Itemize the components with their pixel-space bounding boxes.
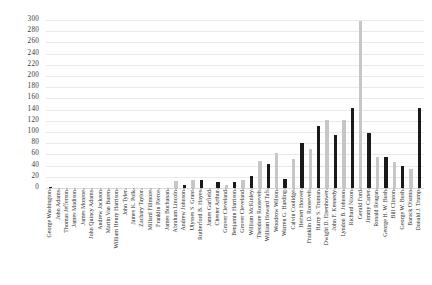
x-axis-tick: George W. Bush (398, 188, 406, 285)
x-axis-tick-label: Benjamin Harrison (232, 190, 238, 236)
x-axis-tick: James K. Polk (130, 188, 138, 285)
bar-slot (315, 20, 323, 188)
bar-slot (197, 20, 205, 188)
x-axis-tick: Richard Nixon (348, 188, 356, 285)
bar-slot (373, 20, 381, 188)
x-axis-tick-label: Millard Fillmore (148, 190, 154, 230)
bar-slot (356, 20, 364, 188)
y-axis-tick-label: 300 (28, 16, 39, 23)
bar (300, 143, 303, 188)
x-axis-tick-label: John Tyler (123, 190, 129, 215)
x-axis-tick-label: Chester Arthur (215, 190, 221, 226)
x-axis-tick: Calvin Coolidge (289, 188, 297, 285)
bar-slot (147, 20, 155, 188)
bar (359, 21, 362, 188)
x-axis-tick-label: William McKinley (249, 190, 255, 235)
x-axis-tick-label: Franklin D. Roosevelt (307, 190, 313, 243)
y-axis-tick-label: 220 (28, 61, 39, 68)
y-axis-tick-label: 0 (35, 184, 39, 191)
x-axis-tick-label: Donald J. Trump (416, 190, 422, 231)
x-axis-tick: Grover Cleveland (239, 188, 247, 285)
bar-slot (63, 20, 71, 188)
bar (191, 180, 194, 188)
bar-slot (214, 20, 222, 188)
x-axis-tick-label: John F. Kennedy (333, 190, 339, 230)
bar-slot (180, 20, 188, 188)
x-axis-tick: Warren G. Harding (281, 188, 289, 285)
x-axis-tick-label: Bill Clinton (391, 190, 397, 219)
bar-slot (46, 20, 54, 188)
x-axis-labels: George WashingtonJohn AdamsThomas Jeffer… (46, 188, 424, 285)
y-axis-tick-label: 260 (28, 39, 39, 46)
x-axis-tick: James Garfield (205, 188, 213, 285)
bar-slot (155, 20, 163, 188)
x-axis-tick: Herbert Hoover (298, 188, 306, 285)
x-axis-tick: James Buchanan (163, 188, 171, 285)
x-axis-tick-label: Abraham Lincoln (173, 190, 179, 232)
bar (342, 120, 345, 188)
bar-slot (130, 20, 138, 188)
x-axis-tick-label: William Henry Harrison (114, 190, 120, 248)
x-axis-tick: Harry S. Truman (315, 188, 323, 285)
bar (384, 157, 387, 188)
x-axis-tick: William McKinley (247, 188, 255, 285)
x-axis-tick: Zachary Taylor (138, 188, 146, 285)
bar-slot (289, 20, 297, 188)
x-axis-tick-label: Warren G. Harding (282, 190, 288, 236)
x-axis-tick: John F. Kennedy (331, 188, 339, 285)
bar (309, 149, 312, 188)
bar (241, 180, 244, 188)
x-axis-tick: George H. W. Bush (382, 188, 390, 285)
x-axis-tick: Franklin D. Roosevelt (306, 188, 314, 285)
x-axis-tick: Andrew Johnson (180, 188, 188, 285)
bar-chart: 3002802602402202001801601401201008060402… (0, 0, 432, 285)
x-axis-tick-label: James Madison (72, 190, 78, 227)
x-axis-tick: Chester Arthur (214, 188, 222, 285)
x-axis-tick: Lyndon B. Johnson (340, 188, 348, 285)
x-axis-tick: Gerald Ford (356, 188, 364, 285)
bar-series (46, 20, 424, 188)
bar-slot (382, 20, 390, 188)
x-axis-tick-label: George W. Bush (400, 190, 406, 229)
x-axis-tick: Bill Clinton (390, 188, 398, 285)
x-axis-tick-label: Andrew Johnson (181, 190, 187, 230)
x-axis-tick-label: George H. W. Bush (383, 190, 389, 237)
x-axis-tick-label: Herbert Hoover (299, 190, 305, 228)
bar-slot (415, 20, 423, 188)
bar-slot (298, 20, 306, 188)
bar-slot (80, 20, 88, 188)
bar-slot (348, 20, 356, 188)
x-axis-tick-label: Gerald Ford (358, 190, 364, 219)
y-axis-tick-label: 280 (28, 28, 39, 35)
bar-slot (407, 20, 415, 188)
bar (393, 162, 396, 188)
x-axis-tick: John Quincy Adams (88, 188, 96, 285)
x-axis-tick-label: Martin Van Buren (106, 190, 112, 233)
y-axis-tick-label: 100 (28, 128, 39, 135)
x-axis-tick-label: Rutherford B. Hayes (198, 190, 204, 240)
bar-slot (264, 20, 272, 188)
x-axis-tick-label: Richard Nixon (349, 190, 355, 226)
x-axis-tick-label: Andrew Jackson (98, 190, 104, 230)
x-axis-tick: Martin Van Buren (105, 188, 113, 285)
x-axis-tick-label: Grover Cleveland (223, 190, 229, 233)
x-axis-tick: John Adams (54, 188, 62, 285)
x-axis-tick-label: Woodrow Wilson (274, 190, 280, 232)
x-axis-tick: Rutherford B. Hayes (197, 188, 205, 285)
y-axis-tick-label: 140 (28, 106, 39, 113)
bar (334, 135, 337, 188)
x-axis-tick: John Tyler (122, 188, 130, 285)
y-axis-tick-label: 20 (31, 173, 39, 180)
x-axis-tick: Benjamin Harrison (231, 188, 239, 285)
bar (250, 176, 253, 188)
x-axis-tick-label: Grover Cleveland (240, 190, 246, 233)
x-axis-tick: Andrew Jackson (96, 188, 104, 285)
bar-slot (96, 20, 104, 188)
x-axis-tick: Abraham Lincoln (172, 188, 180, 285)
bar (376, 157, 379, 188)
x-axis-tick-label: Zachary Taylor (140, 190, 146, 227)
y-axis-tick-label: 40 (31, 162, 39, 169)
bar-slot (365, 20, 373, 188)
x-axis-tick-label: James Buchanan (165, 190, 171, 230)
y-axis-tick-label: 200 (28, 72, 39, 79)
